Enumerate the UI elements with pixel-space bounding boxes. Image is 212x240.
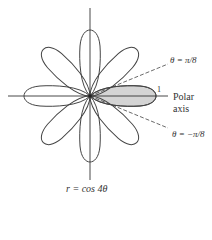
equation-label: r = cos 4θ	[66, 184, 107, 194]
lower-ray-label: θ = −π/8	[172, 130, 205, 139]
origin-dot	[88, 94, 92, 98]
polar-axis-label-2: axis	[173, 104, 189, 114]
upper-ray-label: θ = π/8	[170, 56, 197, 65]
radius-tick-label: 1	[157, 86, 161, 94]
polar-axis-label-1: Polar	[173, 92, 194, 102]
